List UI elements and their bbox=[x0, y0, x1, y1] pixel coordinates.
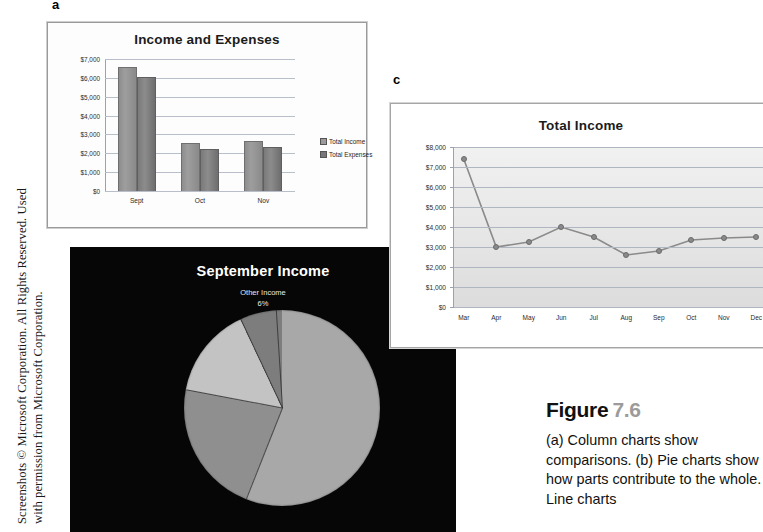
line-chart-y-tick bbox=[450, 247, 454, 248]
line-chart-gridline bbox=[454, 167, 763, 168]
column-chart-legend-item: Total Expenses bbox=[320, 148, 372, 161]
line-chart: Total Income $0$1,000$2,000$3,000$4,000$… bbox=[390, 103, 763, 348]
line-chart-y-tick-label: $4,000 bbox=[426, 224, 446, 231]
line-chart-y-tick bbox=[450, 287, 454, 288]
line-chart-x-tick-label: Sep bbox=[653, 314, 665, 321]
column-chart-y-tick-label: $5,000 bbox=[80, 93, 100, 100]
line-chart-x-tick-label: Nov bbox=[718, 314, 730, 321]
column-chart-title: Income and Expenses bbox=[48, 32, 366, 47]
line-chart-y-tick-label: $8,000 bbox=[426, 144, 446, 151]
pie-chart-bottom-edge bbox=[70, 528, 456, 532]
panel-label-c: c bbox=[393, 72, 400, 87]
line-chart-gridline bbox=[454, 147, 763, 148]
pie-slice-divider bbox=[186, 389, 282, 408]
line-chart-gridline bbox=[454, 287, 763, 288]
line-chart-data-point bbox=[688, 237, 694, 243]
figure-caption: Figure7.6 (a) Column charts show compari… bbox=[546, 398, 763, 509]
line-chart-gridline bbox=[454, 207, 763, 208]
pie-slice-divider bbox=[276, 310, 283, 408]
line-chart-data-point bbox=[493, 244, 499, 250]
line-chart-x-tick-label: Jun bbox=[556, 314, 566, 321]
line-chart-data-point bbox=[526, 239, 532, 245]
column-chart-bar bbox=[200, 149, 219, 191]
column-chart-bar bbox=[118, 67, 137, 191]
line-chart-gridline bbox=[454, 187, 763, 188]
figure-caption-body: (a) Column charts show comparisons. (b) … bbox=[546, 431, 763, 509]
line-chart-x-tick-label: Aug bbox=[620, 314, 632, 321]
pie-callout-label: Other Income bbox=[240, 288, 285, 297]
column-chart-x-tick-label: Oct bbox=[165, 197, 235, 204]
legend-swatch-icon bbox=[320, 138, 327, 145]
column-chart: Income and Expenses $0$1,000$2,000$3,000… bbox=[47, 22, 367, 228]
column-chart-legend-item: Total Income bbox=[320, 135, 372, 148]
line-chart-x-tick-label: Apr bbox=[491, 314, 501, 321]
column-chart-bar-group: Sept bbox=[105, 59, 168, 191]
line-chart-title: Total Income bbox=[391, 118, 763, 133]
line-chart-data-point bbox=[591, 234, 597, 240]
line-chart-x-tick-label: Jul bbox=[590, 314, 598, 321]
line-chart-y-tick-label: $1,000 bbox=[426, 284, 446, 291]
line-chart-y-tick bbox=[450, 307, 454, 308]
line-chart-y-tick bbox=[450, 267, 454, 268]
line-chart-y-tick bbox=[450, 167, 454, 168]
figure-heading: Figure7.6 bbox=[546, 398, 763, 422]
line-chart-gridline bbox=[454, 247, 763, 248]
line-chart-y-tick-label: $5,000 bbox=[426, 204, 446, 211]
column-chart-legend-label: Total Income bbox=[329, 135, 365, 148]
line-chart-data-point bbox=[461, 156, 467, 162]
line-chart-data-point bbox=[558, 224, 564, 230]
column-chart-y-tick-label: $4,000 bbox=[80, 112, 100, 119]
column-chart-x-tick-label: Sept bbox=[102, 197, 172, 204]
column-chart-bar bbox=[181, 143, 200, 191]
line-chart-y-tick-label: $2,000 bbox=[426, 264, 446, 271]
line-chart-gridline bbox=[454, 307, 763, 308]
pie-callout-value: 6% bbox=[258, 299, 269, 308]
line-chart-y-tick-label: $0 bbox=[439, 304, 446, 311]
pie-chart-disc bbox=[184, 310, 380, 506]
panel-label-a: a bbox=[52, 0, 59, 12]
line-chart-data-point bbox=[753, 234, 759, 240]
line-chart-x-tick-label: Mar bbox=[458, 314, 469, 321]
line-chart-y-tick bbox=[450, 227, 454, 228]
line-chart-gridline bbox=[454, 267, 763, 268]
figure-number: 7.6 bbox=[612, 398, 640, 421]
column-chart-y-tick-label: $6,000 bbox=[80, 74, 100, 81]
column-chart-bar-group: Oct bbox=[168, 59, 231, 191]
column-chart-y-tick-label: $1,000 bbox=[80, 169, 100, 176]
credit-line-2: with permission from Microsoft Corporati… bbox=[31, 291, 46, 524]
legend-swatch-icon bbox=[320, 151, 327, 158]
line-chart-y-tick-label: $3,000 bbox=[426, 244, 446, 251]
column-chart-x-tick-label: Nov bbox=[228, 197, 298, 204]
line-chart-x-tick-label: Dec bbox=[750, 314, 762, 321]
credit-line-1: Screenshots © Microsoft Corporation. All… bbox=[15, 188, 30, 524]
credit-sidebar: Screenshots © Microsoft Corporation. All… bbox=[0, 0, 40, 532]
column-chart-bar-group: Nov bbox=[232, 59, 295, 191]
column-chart-gridline bbox=[105, 191, 295, 192]
line-chart-y-tick bbox=[450, 207, 454, 208]
column-chart-y-tick-label: $0 bbox=[93, 188, 100, 195]
column-chart-legend: Total IncomeTotal Expenses bbox=[320, 135, 372, 161]
line-chart-x-tick-label: Oct bbox=[686, 314, 696, 321]
line-chart-y-tick bbox=[450, 147, 454, 148]
line-chart-data-point bbox=[721, 235, 727, 241]
column-chart-bar bbox=[137, 77, 156, 191]
column-chart-y-tick-label: $2,000 bbox=[80, 150, 100, 157]
line-chart-plot-area: $0$1,000$2,000$3,000$4,000$5,000$6,000$7… bbox=[453, 147, 763, 307]
column-chart-plot-area: $0$1,000$2,000$3,000$4,000$5,000$6,000$7… bbox=[105, 59, 295, 191]
line-chart-y-tick-label: $6,000 bbox=[426, 184, 446, 191]
line-chart-data-point bbox=[656, 248, 662, 254]
line-chart-x-tick-label: May bbox=[523, 314, 535, 321]
column-chart-bar bbox=[244, 141, 263, 191]
line-chart-y-tick bbox=[450, 187, 454, 188]
pie-slice-divider bbox=[246, 408, 283, 499]
column-chart-bar bbox=[263, 147, 282, 191]
figure-heading-word: Figure bbox=[546, 398, 608, 421]
line-chart-y-tick-label: $7,000 bbox=[426, 164, 446, 171]
column-chart-y-tick-label: $7,000 bbox=[80, 56, 100, 63]
line-chart-gridline bbox=[454, 227, 763, 228]
column-chart-y-tick-label: $3,000 bbox=[80, 131, 100, 138]
line-chart-data-point bbox=[623, 252, 629, 258]
column-chart-legend-label: Total Expenses bbox=[329, 148, 372, 161]
